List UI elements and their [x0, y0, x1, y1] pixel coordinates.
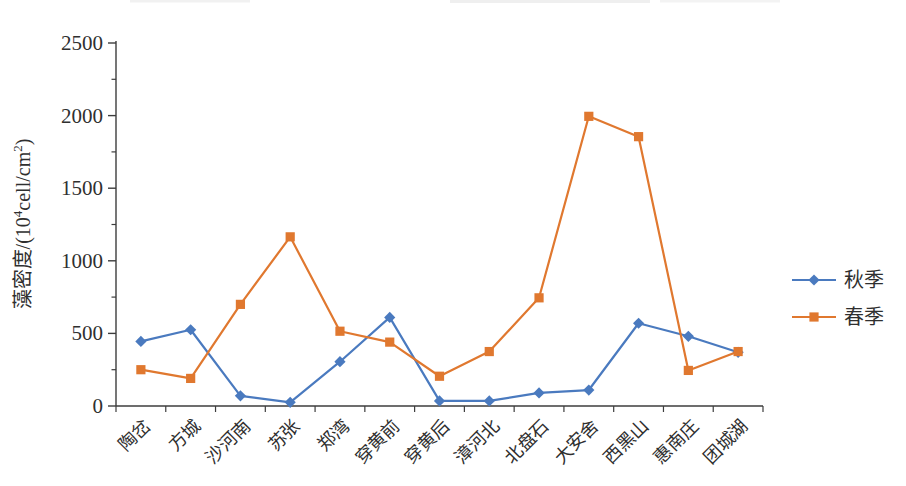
- chart-svg: 05001000150020002500陶岔方城沙河南苏张郑湾穿黄前穿黄后漳河北…: [0, 0, 906, 486]
- cropped-caption-remnant: [660, 0, 780, 3]
- x-axis-category-label: 穿黄后: [401, 416, 453, 468]
- x-axis-category-label: 团城湖: [700, 416, 752, 468]
- series-line-秋季: [141, 317, 738, 402]
- x-axis-category-label: 苏张: [264, 416, 304, 456]
- x-axis-category-label: 西黑山: [600, 416, 652, 468]
- data-point-春季: [385, 338, 394, 347]
- x-axis-category-label: 惠南庄: [650, 416, 702, 468]
- data-point-春季: [485, 347, 494, 356]
- data-point-秋季: [533, 387, 544, 398]
- data-point-秋季: [683, 331, 694, 342]
- data-point-秋季: [484, 395, 495, 406]
- data-point-秋季: [135, 336, 146, 347]
- x-axis-category-label: 沙河南: [202, 416, 254, 468]
- series-line-春季: [141, 116, 738, 378]
- y-axis-title: 藻密度/(104cell/cm2): [10, 139, 35, 310]
- y-axis-tick-label: 1500: [61, 176, 103, 200]
- x-axis-category-label: 方城: [165, 416, 205, 456]
- data-point-春季: [634, 132, 643, 141]
- y-axis-tick-label: 2500: [61, 31, 103, 55]
- algae-density-figure: 05001000150020002500陶岔方城沙河南苏张郑湾穿黄前穿黄后漳河北…: [0, 0, 906, 486]
- x-axis-category-label: 大安舍: [550, 416, 602, 468]
- data-point-春季: [236, 300, 245, 309]
- data-point-春季: [534, 293, 543, 302]
- x-axis-category-label: 北盘石: [501, 416, 553, 468]
- legend-marker-春季: [809, 312, 818, 321]
- y-axis-tick-label: 2000: [61, 104, 103, 128]
- data-point-秋季: [434, 395, 445, 406]
- legend-label-春季: 春季: [844, 306, 884, 328]
- x-axis-category-label: 穿黄前: [351, 416, 403, 468]
- data-point-春季: [684, 366, 693, 375]
- y-axis-tick-label: 0: [93, 394, 104, 418]
- data-point-春季: [435, 372, 444, 381]
- data-point-春季: [136, 365, 145, 374]
- cropped-caption-remnant: [130, 0, 250, 3]
- data-point-春季: [286, 232, 295, 241]
- data-point-春季: [584, 112, 593, 121]
- legend-label-秋季: 秋季: [844, 269, 884, 291]
- x-axis-category-label: 郑湾: [314, 416, 354, 456]
- x-axis-category-label: 漳河北: [451, 416, 503, 468]
- data-point-春季: [734, 347, 743, 356]
- y-axis-tick-label: 500: [72, 321, 104, 345]
- data-point-春季: [186, 374, 195, 383]
- data-point-春季: [335, 327, 344, 336]
- cropped-caption-remnant: [450, 0, 650, 3]
- x-axis-category-label: 陶岔: [115, 416, 155, 456]
- legend-marker-秋季: [808, 274, 819, 285]
- y-axis-tick-label: 1000: [61, 249, 103, 273]
